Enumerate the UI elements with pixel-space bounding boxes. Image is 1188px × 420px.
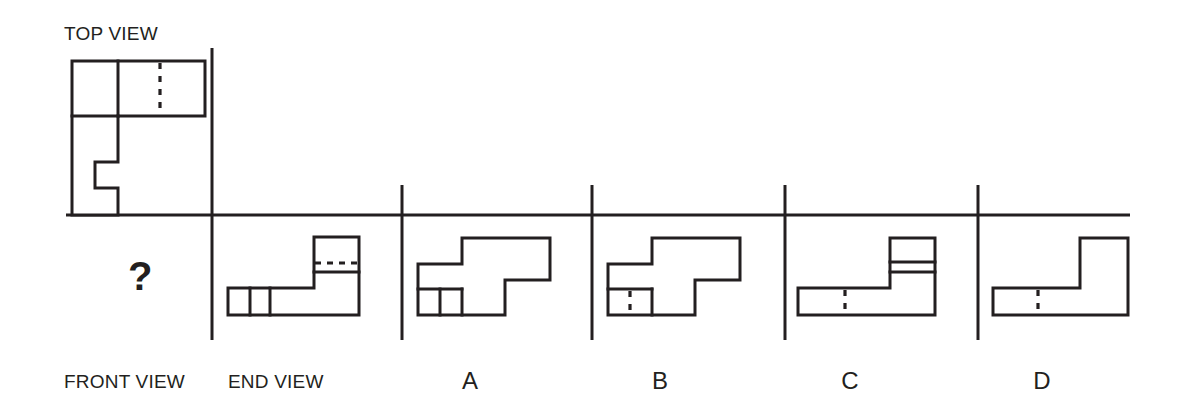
option-a-outline — [418, 238, 550, 315]
option-label-b[interactable]: B — [630, 369, 690, 393]
reference-axes — [66, 48, 1130, 340]
option-label-d[interactable]: D — [1012, 369, 1072, 393]
orthographic-drawing — [0, 0, 1188, 420]
option-label-a[interactable]: A — [440, 369, 500, 393]
end-view-figure — [228, 237, 359, 315]
end-view-label: END VIEW — [228, 372, 324, 391]
option-a-figure — [418, 238, 550, 315]
option-d-outline — [993, 238, 1128, 315]
option-c-figure — [798, 238, 935, 315]
top-view-label: TOP VIEW — [64, 24, 158, 43]
puzzle-canvas: TOP VIEW ? FRONT VIEW END VIEW A B C D — [0, 0, 1188, 420]
option-d-figure — [993, 238, 1128, 315]
missing-front-view-placeholder: ? — [128, 256, 152, 296]
option-label-c[interactable]: C — [820, 369, 880, 393]
top-view-figure — [72, 61, 205, 215]
front-view-label: FRONT VIEW — [64, 372, 185, 391]
top-view-outline — [72, 61, 205, 215]
option-b-outline — [608, 238, 740, 315]
option-c-outline — [798, 238, 935, 315]
option-b-figure — [608, 238, 740, 315]
end-view-outline — [228, 237, 359, 315]
